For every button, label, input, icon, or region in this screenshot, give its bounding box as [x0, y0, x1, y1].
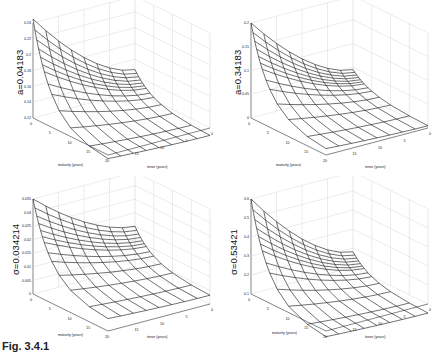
svg-text:5: 5 — [404, 139, 406, 143]
svg-text:15: 15 — [135, 328, 139, 332]
svg-text:0.4: 0.4 — [244, 235, 249, 239]
svg-text:0: 0 — [211, 308, 213, 312]
svg-text:10: 10 — [286, 141, 290, 145]
svg-text:0.2: 0.2 — [244, 273, 249, 277]
x-axis-label: maturity (years) — [58, 163, 83, 167]
svg-text:0: 0 — [248, 298, 250, 302]
svg-text:0.2: 0.2 — [26, 53, 31, 57]
z-axis-label: σ=0.53421 — [228, 229, 239, 275]
svg-text:5: 5 — [186, 315, 188, 319]
svg-text:0: 0 — [29, 292, 31, 296]
svg-text:0.005: 0.005 — [22, 279, 31, 283]
svg-text:20: 20 — [323, 159, 327, 163]
svg-text:20: 20 — [105, 159, 109, 163]
surface-plot-sigma-0-034214: 00.0050.010.0150.020.0250.030.0350510152… — [0, 176, 218, 342]
x-axis-label: maturity (years) — [58, 333, 83, 337]
svg-text:0.16: 0.16 — [24, 85, 31, 89]
svg-text:0.1: 0.1 — [244, 292, 249, 296]
svg-text:0.02: 0.02 — [24, 238, 31, 242]
svg-text:0: 0 — [247, 116, 249, 120]
x-axis-label: maturity (years) — [276, 163, 301, 167]
svg-text:0: 0 — [429, 308, 431, 312]
svg-text:0: 0 — [248, 122, 250, 126]
y-axis-label: tenor (years) — [147, 165, 167, 169]
y-axis-label: tenor (years) — [365, 335, 385, 339]
y-axis-label: tenor (years) — [365, 165, 385, 169]
svg-text:0.6: 0.6 — [244, 197, 249, 201]
svg-text:5: 5 — [49, 307, 51, 311]
svg-text:10: 10 — [68, 317, 72, 321]
svg-text:0.03: 0.03 — [24, 211, 31, 215]
surface-svg: 00.050.10.150.205101520151050 — [218, 0, 436, 166]
svg-text:0.1: 0.1 — [244, 69, 249, 73]
x-axis-label: maturity (years) — [272, 331, 297, 335]
svg-text:5: 5 — [267, 307, 269, 311]
svg-text:0.01: 0.01 — [24, 265, 31, 269]
svg-text:15: 15 — [86, 150, 90, 154]
svg-text:10: 10 — [286, 317, 290, 321]
surface-plot-a-0-34183: 00.050.10.150.205101520151050 a=0.34183 … — [218, 0, 436, 166]
svg-text:0.12: 0.12 — [24, 116, 31, 120]
z-axis-label: σ=0.034214 — [10, 224, 21, 275]
svg-text:0.18: 0.18 — [24, 69, 31, 73]
svg-text:0.15: 0.15 — [242, 45, 249, 49]
svg-text:15: 15 — [353, 152, 357, 156]
surface-svg: 0.10.20.30.40.50.605101520151050 — [218, 176, 436, 342]
svg-text:0: 0 — [211, 132, 213, 136]
svg-text:15: 15 — [304, 326, 308, 330]
svg-text:0.5: 0.5 — [244, 216, 249, 220]
svg-text:20: 20 — [323, 335, 327, 339]
y-axis-label: tenor (years) — [147, 335, 167, 339]
figure-caption: Fig. 3.4.1 — [2, 340, 49, 352]
svg-text:10: 10 — [378, 146, 382, 150]
z-axis-label: a=0.04183 — [14, 50, 25, 95]
surface-plot-sigma-0-53421: 0.10.20.30.40.50.605101520151050 σ=0.534… — [218, 176, 436, 342]
svg-text:0.22: 0.22 — [24, 37, 31, 41]
z-axis-label: a=0.34183 — [232, 50, 243, 95]
svg-text:5: 5 — [49, 131, 51, 135]
svg-text:0.2: 0.2 — [244, 21, 249, 25]
svg-text:5: 5 — [404, 315, 406, 319]
svg-text:10: 10 — [68, 141, 72, 145]
svg-text:0.035: 0.035 — [22, 197, 31, 201]
svg-text:5: 5 — [186, 139, 188, 143]
svg-text:0.015: 0.015 — [22, 251, 31, 255]
svg-text:0: 0 — [30, 298, 32, 302]
svg-text:0.05: 0.05 — [242, 92, 249, 96]
svg-text:5: 5 — [267, 131, 269, 135]
surface-plot-a-0-04183: 0.120.140.160.180.20.220.240510152015105… — [0, 0, 218, 166]
surface-svg: 00.0050.010.0150.020.0250.030.0350510152… — [0, 176, 218, 342]
svg-text:15: 15 — [86, 326, 90, 330]
svg-text:0.14: 0.14 — [24, 100, 31, 104]
svg-text:0.24: 0.24 — [24, 21, 31, 25]
surface-svg: 0.120.140.160.180.20.220.240510152015105… — [0, 0, 218, 166]
svg-text:15: 15 — [304, 150, 308, 154]
svg-text:0: 0 — [30, 122, 32, 126]
svg-text:20: 20 — [105, 335, 109, 339]
svg-text:0: 0 — [429, 132, 431, 136]
svg-text:10: 10 — [160, 322, 164, 326]
svg-text:0.3: 0.3 — [244, 254, 249, 258]
svg-text:0.025: 0.025 — [22, 224, 31, 228]
